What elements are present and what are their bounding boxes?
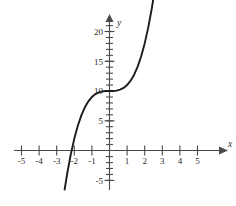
y-tick-label--5: -5: [96, 176, 104, 186]
graph-canvas: -5 -4 -3 -2 -1 1 2 3 4 5 -5 5 10 15 20 y…: [0, 0, 236, 206]
x-tick-label-4: 4: [178, 156, 183, 166]
y-axis-arrow-icon: [106, 14, 114, 22]
x-tick-label--2: -2: [71, 156, 79, 166]
y-tick-label-15: 15: [94, 57, 104, 67]
x-tick-label--3: -3: [53, 156, 61, 166]
cubic-function-graph: -5 -4 -3 -2 -1 1 2 3 4 5 -5 5 10 15 20 y…: [0, 0, 236, 206]
x-tick-label-3: 3: [160, 156, 165, 166]
x-tick-label-1: 1: [125, 156, 130, 166]
x-axis-arrow-icon: [219, 147, 228, 155]
x-tick-label--5: -5: [18, 156, 26, 166]
x-axis-name: x: [227, 139, 233, 149]
x-tick-label-5: 5: [195, 156, 200, 166]
x-tick-label-2: 2: [142, 156, 147, 166]
y-tick-label-20: 20: [94, 27, 104, 37]
y-axis-name: y: [116, 18, 122, 28]
y-tick-label-5: 5: [99, 116, 104, 126]
x-tick-label--4: -4: [35, 156, 43, 166]
x-tick-label--1: -1: [88, 156, 96, 166]
